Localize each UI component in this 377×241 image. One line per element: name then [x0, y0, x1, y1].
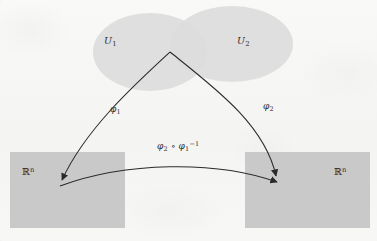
phi1-subscript: 1	[117, 108, 121, 116]
Rn-right-symbol: ℝ	[334, 166, 342, 177]
transition-map-label: φ2 ∘ φ1−1	[157, 141, 199, 152]
phi1-label: φ1	[110, 105, 121, 115]
Rn-left-exponent: n	[30, 166, 35, 174]
U1-subscript: 1	[112, 40, 117, 48]
chart-domain-U1-label: U1	[104, 36, 117, 48]
codomain-box-right	[245, 152, 370, 228]
codomain-left-label: ℝn	[22, 167, 35, 177]
chart-domain-U2-label: U2	[237, 36, 250, 48]
phi2-label: φ2	[263, 102, 274, 112]
U2-symbol: U	[237, 35, 245, 46]
composition-operator: ∘	[168, 141, 179, 151]
phi2-subscript: 2	[270, 105, 274, 113]
U2-subscript: 2	[245, 40, 250, 48]
figure-canvas: U1 U2 φ1 φ2 φ2 ∘ φ1−1 ℝn ℝn	[0, 0, 377, 241]
codomain-box-left	[10, 152, 125, 228]
U1-symbol: U	[104, 35, 112, 46]
Rn-right-exponent: n	[342, 166, 347, 174]
chart-domain-U2-ellipse	[171, 6, 293, 82]
Rn-left-symbol: ℝ	[22, 166, 30, 177]
codomain-right-label: ℝn	[334, 167, 347, 177]
diagram-svg	[0, 0, 377, 241]
composite-phi1-inverse-exponent: −1	[189, 140, 199, 148]
